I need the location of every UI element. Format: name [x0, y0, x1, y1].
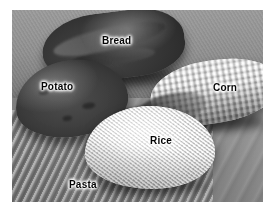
label-rice: Rice [150, 135, 172, 146]
rice-shading [85, 106, 216, 189]
rice-pile [85, 106, 216, 189]
potato-eye [62, 115, 72, 121]
label-corn: Corn [213, 82, 237, 93]
label-bread: Bread [102, 35, 131, 46]
label-pasta: Pasta [69, 179, 97, 190]
figure-container: Bread Potato Corn Rice Pasta [0, 0, 268, 213]
food-photograph: Bread Potato Corn Rice Pasta [12, 10, 263, 202]
label-potato: Potato [41, 81, 73, 92]
